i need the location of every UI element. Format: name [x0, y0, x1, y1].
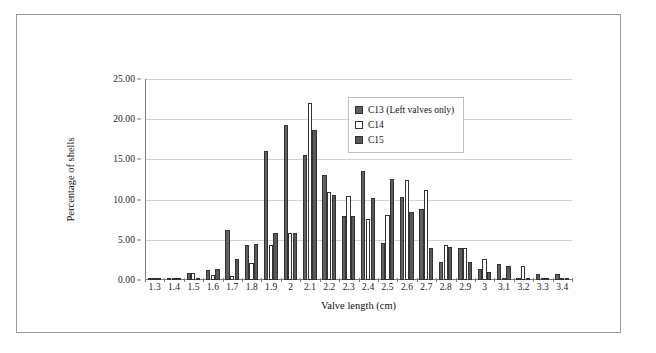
x-axis-tick-mark [456, 278, 457, 282]
bar [308, 103, 312, 280]
bar [516, 278, 520, 280]
bar [303, 155, 307, 280]
y-axis-tick-mark [137, 119, 141, 120]
x-axis-tick-label: 3.4 [556, 282, 568, 292]
gridline [145, 79, 572, 80]
y-axis-tick-label: 20.00 [113, 114, 135, 124]
x-axis-tick-mark [572, 278, 573, 282]
y-axis-tick-label: 15.00 [113, 154, 135, 164]
bar [215, 269, 219, 280]
bar [157, 278, 161, 280]
legend-item-label: C13 (Left valves only) [368, 105, 454, 115]
bar [371, 198, 375, 280]
bar [288, 233, 292, 280]
bar [521, 266, 525, 280]
bar [536, 274, 540, 280]
bar [419, 209, 423, 280]
bar [196, 278, 200, 280]
x-axis-tick-label: 2.1 [304, 282, 316, 292]
bar [381, 243, 385, 280]
bar [497, 264, 501, 280]
bar [409, 212, 413, 280]
bar [269, 245, 273, 280]
legend-item[interactable]: C13 (Left valves only) [355, 102, 454, 117]
x-axis-tick-label: 1.7 [226, 282, 238, 292]
bar [502, 278, 506, 280]
x-axis-tick-label: 2 [288, 282, 293, 292]
x-axis-tick-label: 2.6 [401, 282, 413, 292]
x-axis-tick-label: 2.7 [420, 282, 432, 292]
bar [327, 192, 331, 280]
bar [526, 278, 530, 280]
y-axis-tick-mark [137, 79, 141, 80]
legend-swatch-icon [355, 121, 363, 129]
x-axis-tick-mark [514, 278, 515, 282]
y-axis-tick-mark [137, 280, 141, 281]
bar [332, 195, 336, 280]
bar [312, 130, 316, 280]
bar [506, 266, 510, 280]
x-axis-tick-mark [261, 278, 262, 282]
y-axis-tick-label: 5.00 [118, 235, 135, 245]
bar [264, 151, 268, 280]
bar [385, 215, 389, 280]
bar [167, 278, 171, 280]
x-axis-tick-label: 1.4 [168, 282, 180, 292]
bar [206, 270, 210, 280]
x-axis-tick-label: 1.5 [187, 282, 199, 292]
x-axis-tick-label: 1.9 [265, 282, 277, 292]
x-axis-tick-mark [320, 278, 321, 282]
bar [439, 262, 443, 280]
bar [555, 274, 559, 280]
bar [322, 175, 326, 280]
legend-item[interactable]: C15 [355, 132, 454, 147]
gridline [145, 200, 572, 201]
bar [444, 245, 448, 280]
bar [273, 233, 277, 280]
bar [545, 278, 549, 280]
bar [249, 263, 253, 280]
x-axis-tick-mark [242, 278, 243, 282]
bar [560, 278, 564, 280]
bar [152, 278, 156, 280]
y-axis-tick-label: 25.00 [113, 74, 135, 84]
x-axis-tick-mark [359, 278, 360, 282]
x-axis-tick-label: 2.9 [459, 282, 471, 292]
x-axis-tick-label: 3.3 [537, 282, 549, 292]
x-axis-tick-mark [184, 278, 185, 282]
x-axis-tick-label: 2.4 [362, 282, 374, 292]
bar [346, 196, 350, 280]
legend-swatch-icon [355, 136, 363, 144]
y-axis-line [145, 79, 146, 280]
bar [463, 248, 467, 280]
x-axis-tick-mark [339, 278, 340, 282]
legend-item[interactable]: C14 [355, 117, 454, 132]
legend-item-label: C14 [368, 120, 384, 130]
x-axis-title: Valve length (cm) [145, 300, 572, 311]
bar [254, 244, 258, 280]
bar [366, 219, 370, 280]
x-axis-tick-label: 3 [482, 282, 487, 292]
x-axis-tick-mark [417, 278, 418, 282]
legend-swatch-icon [355, 106, 363, 114]
bar [245, 245, 249, 280]
x-axis-tick-label: 2.8 [440, 282, 452, 292]
bar [429, 248, 433, 280]
bar [187, 273, 191, 280]
bar [191, 273, 195, 280]
x-axis-tick-label: 1.6 [207, 282, 219, 292]
bar [565, 278, 569, 280]
x-axis-tick-label: 3.2 [517, 282, 529, 292]
gridline [145, 159, 572, 160]
x-axis-tick-label: 2.3 [343, 282, 355, 292]
bar [293, 233, 297, 280]
legend-item-label: C15 [368, 135, 384, 145]
bar [230, 276, 234, 280]
x-axis-tick-mark [145, 278, 146, 282]
y-axis-tick-label: 0.00 [118, 275, 135, 285]
x-axis-tick-mark [203, 278, 204, 282]
x-axis-tick-mark [223, 278, 224, 282]
bar [487, 272, 491, 280]
x-axis-tick-mark [281, 278, 282, 282]
y-axis-tick-mark [137, 239, 141, 240]
